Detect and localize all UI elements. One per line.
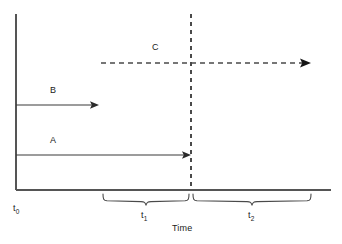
interval-t2-subscript: 2 [251, 215, 255, 222]
arrow-label-b: B [50, 86, 56, 95]
origin-tick-subscript: 0 [16, 208, 20, 215]
arrow-label-a: A [50, 136, 56, 145]
diagram-canvas [0, 0, 342, 244]
origin-tick-label: t0 [13, 204, 20, 215]
timeline-diagram: t0 B A C t1 t2 Time [0, 0, 342, 244]
arrow-label-c: C [152, 43, 159, 52]
interval-brace-t2 [193, 194, 311, 205]
interval-brace-t1 [103, 194, 189, 205]
interval-label-t2: t2 [248, 211, 255, 222]
interval-label-t1: t1 [141, 211, 148, 222]
interval-t1-subscript: 1 [144, 215, 148, 222]
x-axis-caption: Time [172, 224, 192, 233]
